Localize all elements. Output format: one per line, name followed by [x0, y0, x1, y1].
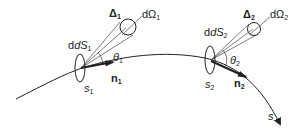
- angle-label-1: θ1: [113, 52, 123, 64]
- angle-arc-2: [223, 50, 227, 65]
- point-label-2: s2: [205, 79, 214, 91]
- surface-label-1-main: dS: [74, 39, 87, 51]
- direction-label-1-main: Δ: [109, 7, 117, 19]
- angle-arc-1: [98, 52, 103, 63]
- surface-label-2: ddS2: [204, 27, 228, 39]
- angle-label-2-sub: 2: [236, 60, 240, 67]
- direction-label-1-sub: 1: [117, 13, 121, 20]
- angle-label-2: θ2: [230, 55, 240, 67]
- solid-angle-label-2: dΩ2: [270, 9, 288, 21]
- normal-label-2-sub: 2: [241, 83, 245, 90]
- normal-label-1: n1: [111, 73, 122, 85]
- point-label-2-sub: 2: [211, 84, 215, 91]
- direction-line-1: [122, 16, 142, 35]
- surface-label-2-sub: 2: [224, 32, 228, 39]
- direction-label-1: Δ1: [109, 8, 121, 20]
- angle-label-1-sub: 1: [119, 57, 123, 64]
- solid-angle-label-1-main: dΩ: [142, 8, 156, 20]
- normal-label-2-main: n: [234, 77, 241, 89]
- point-label-1-sub: 1: [90, 88, 94, 95]
- surface-label-1: ddS1: [68, 40, 92, 52]
- solid-angle-circle-2: [248, 23, 261, 36]
- point-label-1: s1: [84, 83, 93, 95]
- direction-label-2-sub: 2: [251, 14, 255, 21]
- solid-angle-label-2-sub: 2: [284, 14, 288, 21]
- curve-label: s: [268, 111, 274, 122]
- normal-label-1-main: n: [111, 72, 118, 84]
- solid-angle-circle-1: [120, 19, 136, 35]
- solid-angle-label-2-main: dΩ: [270, 8, 284, 20]
- solid-angle-label-1: dΩ1: [142, 9, 160, 21]
- direction-label-2-main: Δ: [243, 8, 251, 20]
- direction-label-2: Δ2: [243, 9, 255, 21]
- diagram-canvas: Δ1 dΩ1 ddS1 θ1 n1 s1 Δ2 dΩ2 ddS2 θ2 n2 s…: [0, 0, 298, 132]
- normal-label-1-sub: 1: [118, 78, 122, 85]
- surface-label-2-main: dS: [210, 26, 223, 38]
- normal-arrow-2: [211, 61, 246, 77]
- normal-label-2: n2: [234, 78, 245, 90]
- solid-angle-label-1-sub: 1: [156, 14, 160, 21]
- surface-label-1-sub: 1: [88, 45, 92, 52]
